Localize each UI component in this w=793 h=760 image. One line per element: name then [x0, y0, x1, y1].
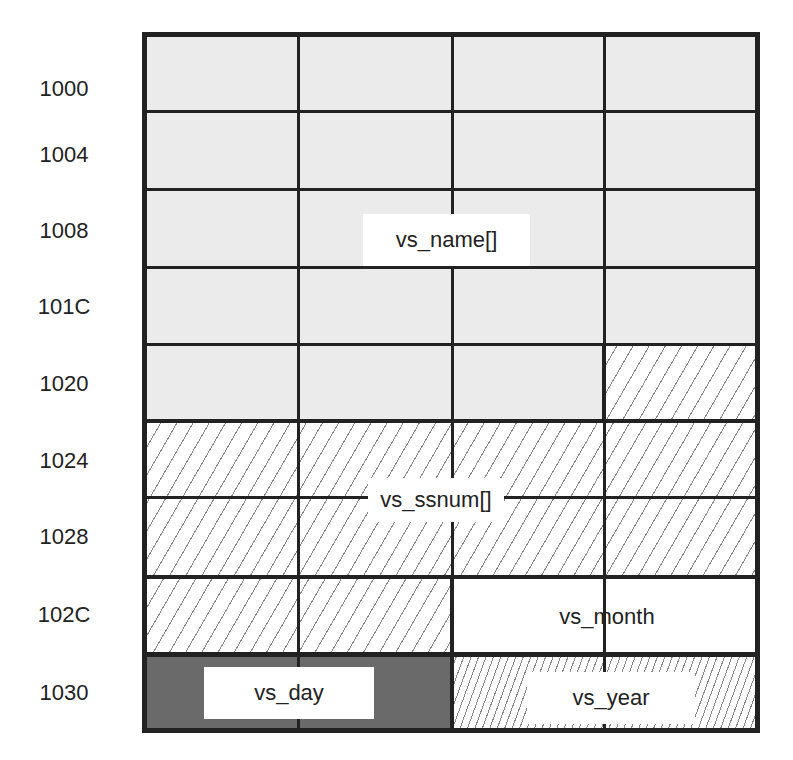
address-label-1000: 1000: [0, 76, 128, 102]
field-label-vs-name: vs_name[]: [363, 214, 530, 266]
address-label-1004: 1004: [0, 142, 128, 168]
field-label-vs-month: vs_month: [532, 597, 682, 637]
grid-line: [297, 32, 300, 733]
field-label-vs-day: vs_day: [204, 667, 374, 719]
field-label-vs-ssnum: vs_ssnum[]: [368, 478, 504, 522]
vs-ssnum-region-head: [604, 344, 760, 421]
address-label-1028: 1028: [0, 524, 128, 550]
address-label-1020: 1020: [0, 371, 128, 397]
region-boundary: [450, 576, 454, 733]
vs-name-region-tail: [142, 344, 604, 421]
region-boundary: [602, 343, 606, 421]
address-label-101c: 101C: [0, 294, 128, 320]
address-label-102c: 102C: [0, 602, 128, 628]
memory-layout-grid: vs_name[] vs_ssnum[] vs_month vs_day vs_…: [142, 32, 760, 733]
address-label-1024: 1024: [0, 448, 128, 474]
address-label-1008: 1008: [0, 218, 128, 244]
field-label-vs-year: vs_year: [527, 672, 695, 724]
address-label-1030: 1030: [0, 680, 128, 706]
